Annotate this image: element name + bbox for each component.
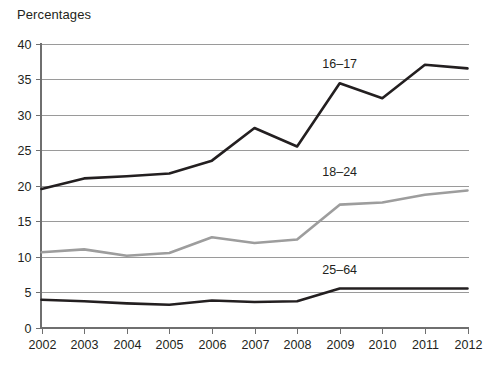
x-tick-label: 2008 <box>284 338 312 352</box>
series-line-1 <box>42 65 468 189</box>
x-tick-label: 2009 <box>327 338 355 352</box>
x-axis-ticks: 2002200320042005200620072008200920102011… <box>29 328 483 352</box>
series-labels: 16–1718–2425–64 <box>322 57 357 277</box>
y-tick-label: 35 <box>18 73 32 87</box>
series-label-2: 18–24 <box>322 165 357 179</box>
series-label-1: 16–17 <box>322 57 357 71</box>
x-tick-label: 2010 <box>369 338 397 352</box>
plot-area: 0510152025303540 20022003200420052006200… <box>0 0 492 371</box>
x-tick-label: 2011 <box>412 338 439 352</box>
y-tick-label: 25 <box>18 144 32 158</box>
data-series <box>42 65 468 305</box>
gridlines <box>42 45 469 329</box>
y-tick-label: 40 <box>18 38 32 52</box>
x-tick-label: 2012 <box>455 338 483 352</box>
x-tick-label: 2003 <box>71 338 99 352</box>
y-axis-ticks: 0510152025303540 <box>18 38 41 336</box>
x-tick-label: 2005 <box>156 338 184 352</box>
x-tick-label: 2006 <box>199 338 227 352</box>
series-line-2 <box>42 190 468 255</box>
x-tick-label: 2002 <box>29 338 57 352</box>
y-tick-label: 30 <box>18 109 32 123</box>
axes <box>41 43 469 329</box>
y-tick-label: 10 <box>18 251 32 265</box>
y-tick-label: 5 <box>25 286 32 300</box>
series-label-3: 25–64 <box>322 263 357 277</box>
y-tick-label: 20 <box>18 180 32 194</box>
y-tick-label: 15 <box>18 215 32 229</box>
line-chart: Percentages 0510152025303540 20022003200… <box>0 0 492 371</box>
x-tick-label: 2004 <box>114 338 142 352</box>
x-tick-label: 2007 <box>242 338 270 352</box>
y-tick-label: 0 <box>25 322 32 336</box>
series-line-3 <box>42 288 468 304</box>
